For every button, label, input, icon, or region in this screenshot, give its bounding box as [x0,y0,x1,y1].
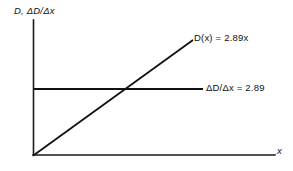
y-axis-label: D, ΔD/Δx [14,6,55,16]
linear-function-line [34,40,193,155]
constant-slope-annotation: ΔD/Δx = 2.89 [206,83,265,93]
linear-function-annotation: D(x) = 2.89x [194,33,248,43]
x-axis-label: x [277,146,282,156]
figure-container: D, ΔD/Δx x D(x) = 2.89x ΔD/Δx = 2.89 [0,0,293,171]
